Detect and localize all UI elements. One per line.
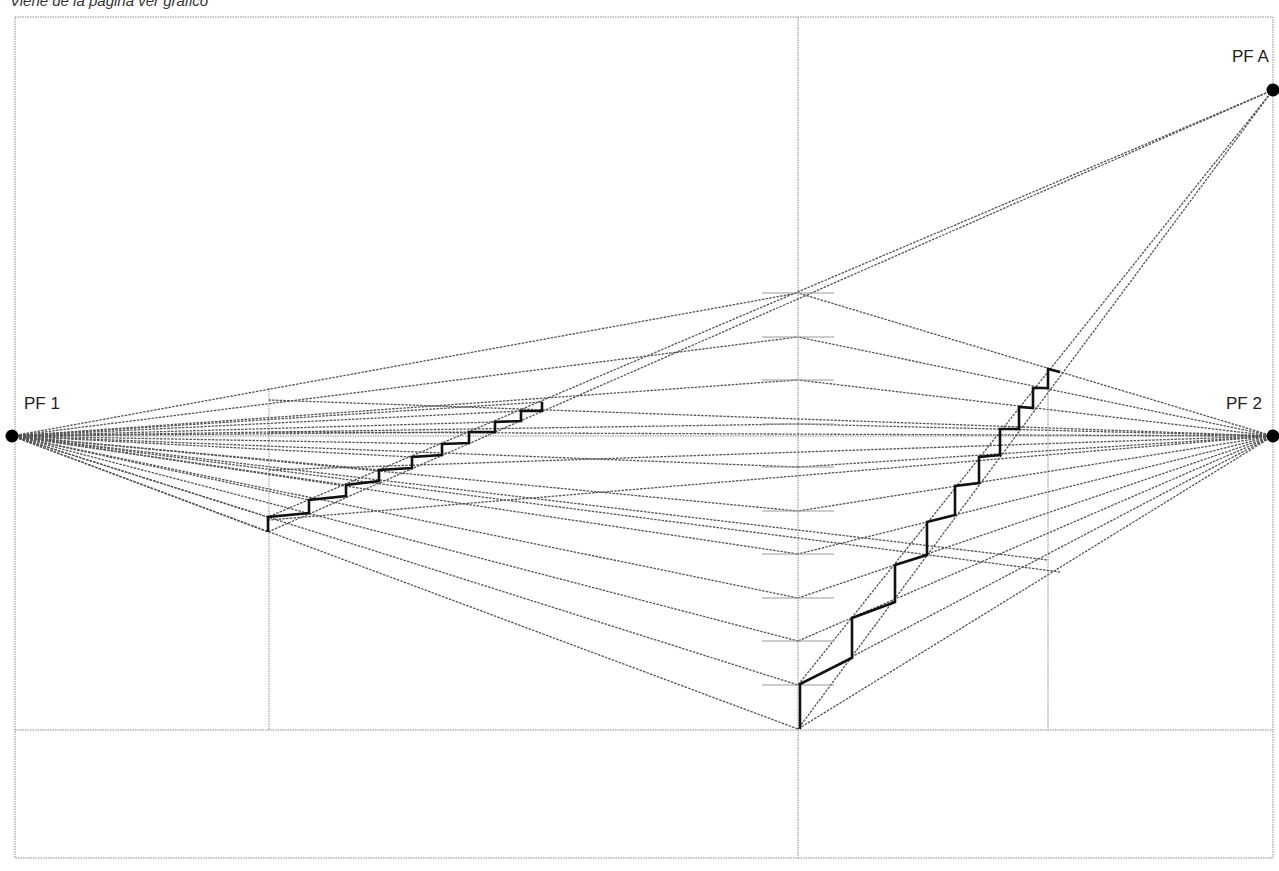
pf2-line <box>798 436 1273 685</box>
pf1-line <box>12 436 268 532</box>
vanishing-points <box>6 84 1279 443</box>
pf1-line <box>12 436 346 485</box>
label-pfa: PF A <box>1232 47 1269 67</box>
pf1-line <box>12 436 1060 572</box>
label-pf2: PF 2 <box>1226 394 1262 414</box>
pf2-line <box>798 436 1273 467</box>
construction-lines <box>12 90 1273 729</box>
height-ticks <box>762 293 834 685</box>
stairs <box>268 369 1060 729</box>
vanishing-point-pfa <box>1267 84 1279 97</box>
pf1-line <box>12 436 268 517</box>
frame-border <box>15 17 1273 858</box>
pf2-line <box>269 436 1273 520</box>
pf1-line <box>12 436 798 598</box>
stair-right <box>800 369 1060 729</box>
pfa-line <box>798 90 1273 729</box>
pfa-line <box>268 90 1273 517</box>
pf1-line <box>12 337 798 436</box>
pf2-line <box>798 436 1273 598</box>
label-pf1: PF 1 <box>24 394 60 414</box>
pf1-line <box>12 436 798 641</box>
pf2-line <box>798 436 1273 511</box>
pf2-line <box>798 436 1273 729</box>
vanishing-point-pf1 <box>6 430 19 443</box>
pf2-line <box>269 432 1273 436</box>
perspective-diagram <box>0 0 1279 871</box>
pf1-line <box>12 411 521 436</box>
vanishing-point-pf2 <box>1267 430 1279 443</box>
pf2-line <box>269 400 1273 436</box>
pf2-line <box>798 293 1273 436</box>
pf2-line <box>798 436 1273 554</box>
pf1-line <box>12 380 798 436</box>
frame <box>15 17 1273 858</box>
